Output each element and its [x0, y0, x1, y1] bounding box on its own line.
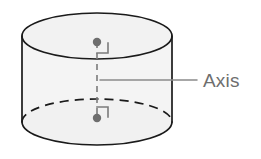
- axis-top-endpoint-dot: [93, 38, 101, 46]
- axis-label: Axis: [203, 70, 240, 91]
- axis-bottom-endpoint-dot: [93, 114, 101, 122]
- geometry-figure: Axis: [0, 0, 261, 159]
- cylinder-axis-diagram: Axis: [0, 0, 261, 159]
